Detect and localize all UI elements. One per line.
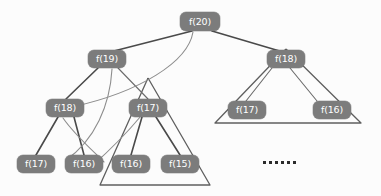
node-f17-right-label: f(17) bbox=[236, 105, 258, 115]
edge-f17-middle-to-f15 bbox=[156, 117, 180, 155]
edge-f18-left-to-f17 bbox=[36, 117, 58, 155]
node-f16-right-label: f(16) bbox=[321, 105, 343, 115]
edge-root-to-right-child bbox=[212, 31, 283, 52]
node-f17-leaf-left[interactable]: f(17) bbox=[17, 155, 55, 173]
node-f16-right[interactable]: f(16) bbox=[313, 101, 351, 119]
edge-f18-right-to-f16 bbox=[290, 68, 317, 101]
node-f18-left[interactable]: f(18) bbox=[46, 99, 84, 117]
edge-f19-to-f18 bbox=[66, 68, 98, 99]
memo-edge-root-to-f18-left bbox=[72, 32, 193, 107]
node-f17-leaf-left-label: f(17) bbox=[25, 159, 47, 169]
edge-f19-to-f17 bbox=[118, 68, 148, 99]
node-f17-middle-label: f(17) bbox=[137, 103, 159, 113]
node-f18-left-label: f(18) bbox=[54, 103, 76, 113]
ellipsis-dot bbox=[263, 161, 266, 164]
node-f17-middle[interactable]: f(17) bbox=[129, 99, 167, 117]
recursion-tree-figure: f(20) f(19) f(18) f(17) f(16) f(17) f(16… bbox=[0, 0, 381, 196]
node-f15-leaf-middle[interactable]: f(15) bbox=[161, 155, 199, 173]
node-f20-label: f(20) bbox=[189, 17, 211, 27]
node-f18-right-label: f(18) bbox=[275, 54, 297, 64]
node-f19[interactable]: f(19) bbox=[88, 50, 126, 68]
node-f18-right[interactable]: f(18) bbox=[267, 50, 305, 68]
edge-f18-right-to-f17 bbox=[246, 68, 272, 101]
ellipsis-dot bbox=[293, 161, 296, 164]
ellipsis-dot bbox=[281, 161, 284, 164]
edge-f17-middle-to-f16 bbox=[131, 117, 142, 155]
ellipsis-dot bbox=[287, 161, 290, 164]
node-f20-root[interactable]: f(20) bbox=[180, 12, 220, 31]
node-f16-leaf-middle-label: f(16) bbox=[120, 159, 142, 169]
node-f15-leaf-middle-label: f(15) bbox=[169, 159, 191, 169]
node-f19-label: f(19) bbox=[96, 54, 118, 64]
node-f16-leaf-left-label: f(16) bbox=[73, 159, 95, 169]
node-f16-leaf-middle[interactable]: f(16) bbox=[112, 155, 150, 173]
node-f17-right[interactable]: f(17) bbox=[228, 101, 266, 119]
ellipsis-more-subtrees bbox=[263, 161, 296, 164]
ellipsis-dot bbox=[275, 161, 278, 164]
edge-root-to-left-child bbox=[110, 31, 192, 52]
ellipsis-dot bbox=[269, 161, 272, 164]
node-f16-leaf-left[interactable]: f(16) bbox=[65, 155, 103, 173]
